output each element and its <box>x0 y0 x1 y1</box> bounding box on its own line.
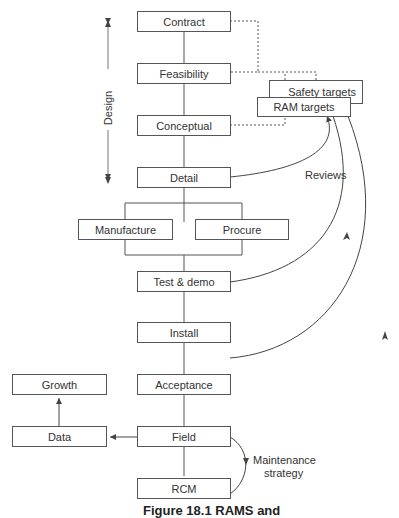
maintenance-label-2: strategy <box>264 467 303 479</box>
node-data: Data <box>12 426 107 447</box>
node-acceptance: Acceptance <box>137 374 231 395</box>
node-feasibility: Feasibility <box>137 63 231 84</box>
node-test-demo: Test & demo <box>137 271 231 292</box>
design-label: Design <box>102 88 114 128</box>
reviews-label: Reviews <box>305 169 347 181</box>
node-contract: Contract <box>137 11 231 32</box>
node-conceptual: Conceptual <box>137 115 231 136</box>
node-install: Install <box>137 322 231 343</box>
node-manufacture: Manufacture <box>78 219 173 240</box>
node-detail: Detail <box>137 167 231 188</box>
node-growth: Growth <box>12 374 107 395</box>
maintenance-label-1: Maintenance <box>253 454 316 466</box>
node-field: Field <box>137 426 231 447</box>
node-rcm: RCM <box>137 478 231 499</box>
node-ram-targets: RAM targets <box>257 97 351 117</box>
node-procure: Procure <box>195 219 289 240</box>
figure-caption: Figure 18.1 RAMS and <box>143 503 280 518</box>
